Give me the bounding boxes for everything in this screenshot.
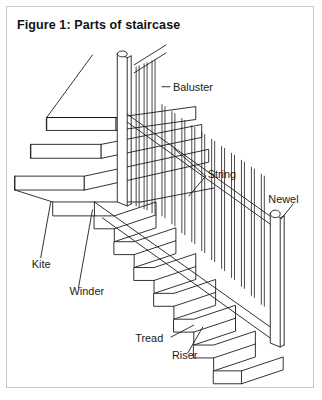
label-tread: Tread <box>135 332 163 344</box>
leader-kite <box>41 202 51 258</box>
label-string: String <box>208 168 237 180</box>
label-newel: Newel <box>268 193 298 205</box>
leader-winder <box>79 210 93 287</box>
leader-string-2 <box>189 176 206 196</box>
label-kite: Kite <box>32 258 51 270</box>
label-winder: Winder <box>70 285 105 297</box>
upper-floor-edge <box>47 55 93 118</box>
bottom-newel-post <box>270 210 284 347</box>
staircase-diagram: Baluster String Newel Kite Winder Tread … <box>7 7 313 387</box>
figure-frame: Figure 1: Parts of staircase <box>6 6 314 388</box>
label-riser: Riser <box>172 349 198 361</box>
leader-newel <box>281 204 293 219</box>
winder-steps-group <box>15 107 214 216</box>
label-baluster: Baluster <box>173 81 213 93</box>
